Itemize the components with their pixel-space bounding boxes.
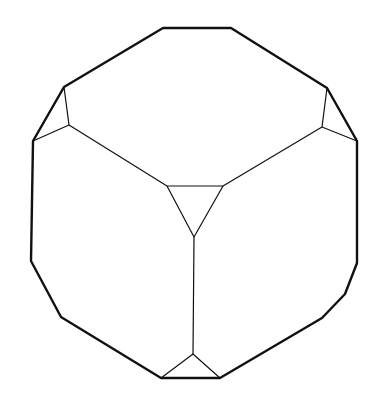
outer-outline (31, 28, 357, 378)
truncated-cube-diagram (0, 0, 378, 401)
interior-edge (193, 237, 194, 354)
interior-edge (69, 125, 167, 186)
center-corner-triangle (167, 186, 223, 237)
interior-edge (223, 127, 322, 186)
interior-edges (69, 125, 322, 354)
bottom-corner-triangle (161, 354, 220, 378)
